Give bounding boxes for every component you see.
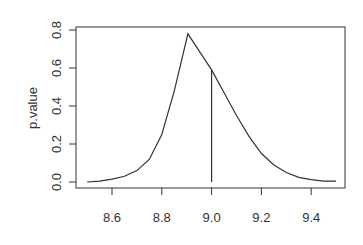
y-tick-label: 0.0 — [49, 173, 64, 191]
x-tick-label: 9.2 — [252, 210, 270, 225]
y-tick-label: 0.2 — [49, 135, 64, 153]
y-axis-title: p.value — [25, 87, 40, 129]
chart: 0.00.20.40.60.8 8.68.89.09.29.4 p.value — [0, 0, 363, 245]
x-tick-label: 8.6 — [103, 210, 121, 225]
y-tick-label: 0.8 — [49, 21, 64, 39]
y-tick-label: 0.6 — [49, 59, 64, 77]
x-tick-label: 9.4 — [302, 210, 320, 225]
x-tick-label: 8.8 — [153, 210, 171, 225]
y-axis: 0.00.20.40.60.8 — [49, 21, 76, 191]
y-tick-label: 0.4 — [49, 97, 64, 115]
plot-frame — [76, 27, 345, 188]
x-axis: 8.68.89.09.29.4 — [103, 188, 320, 225]
x-tick-label: 9.0 — [203, 210, 221, 225]
